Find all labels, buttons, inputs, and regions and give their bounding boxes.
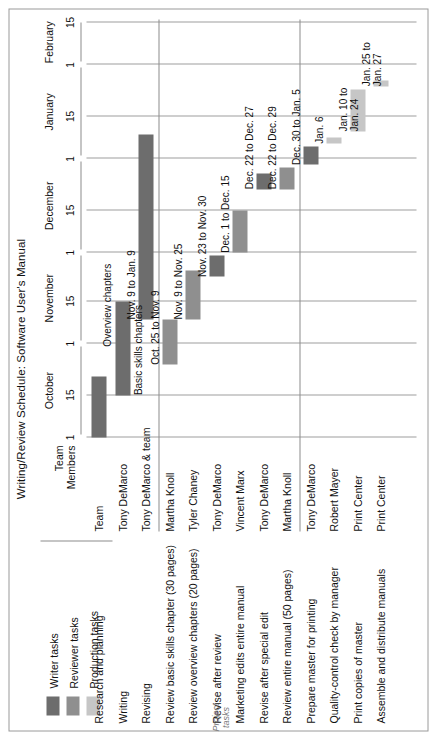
- gantt-chart-screenshot: Writing/Review Schedule: Software User's…: [0, 0, 435, 737]
- bar-date-label-line1: Nov. 9 to Nov. 25: [172, 243, 183, 319]
- bar-date-label: Jan. 10 toJan. 24: [337, 87, 359, 131]
- bar-date-label-line1: Dec. 1 to Dec. 15: [219, 175, 230, 252]
- task-label: Review entire manual (50 pages): [280, 569, 292, 723]
- team-member-label: Robert Mayer: [327, 467, 339, 531]
- task-label: Research and planning: [92, 615, 104, 723]
- gridline-vertical: [86, 209, 416, 210]
- team-members-line1: Team: [52, 445, 64, 531]
- axis-month-november: November: [42, 258, 54, 338]
- legend-swatch-writer: [46, 696, 59, 715]
- legend-swatch-reviewer: [66, 696, 79, 715]
- axis-tick-november-15: 15: [64, 294, 75, 308]
- bar-date-label: Oct. 25 to Nov. 9: [149, 290, 160, 364]
- gantt-bar[interactable]: [279, 167, 294, 188]
- bar-date-label: Dec. 1 to Dec. 15: [219, 175, 230, 252]
- axis-tick-october-15: 15: [64, 388, 75, 402]
- axis-tick-december-1: 1: [64, 245, 75, 259]
- task-label: Revising: [139, 683, 151, 723]
- column-header-team-members: Team Members: [52, 445, 76, 531]
- task-label: Marketing edits entire manual: [233, 585, 245, 723]
- group-label-line1: Project: [210, 699, 220, 735]
- bar-date-label-line2: Jan. 27: [371, 42, 382, 86]
- gantt-bar[interactable]: [303, 146, 318, 164]
- task-label: Quality-control check by manager: [327, 567, 339, 723]
- gantt-bar[interactable]: [326, 137, 341, 143]
- axis-rule-february: [80, 22, 81, 61]
- legend-item-reviewer: Reviewer tasks: [64, 565, 81, 715]
- team-member-label: Vincent Marx: [233, 470, 245, 531]
- annotation-overview-chapters: Overview chapters: [101, 263, 112, 346]
- team-member-label: Print Center: [351, 475, 363, 531]
- axis-rule-january: [80, 67, 81, 155]
- gantt-plot-area: Nov. 9 to Jan. 9Oct. 25 to Nov. 9Nov. 9 …: [86, 19, 416, 437]
- axis-month-december: December: [42, 165, 54, 245]
- axis-tick-february-15: 15: [64, 15, 75, 29]
- team-member-label: Tony DeMarco & team: [139, 427, 151, 531]
- bar-date-label-line1: Nov. 23 to Nov. 30: [196, 195, 207, 276]
- legend-label-writer: Writer tasks: [47, 633, 59, 688]
- axis-rule-october: [80, 346, 81, 434]
- group-separator: [158, 19, 159, 531]
- bar-date-label: Dec. 22 to Dec. 29: [266, 106, 277, 189]
- axis-tick-october-1: 1: [64, 430, 75, 444]
- bar-date-label: Dec. 30 to Jan. 5: [290, 89, 301, 165]
- gantt-bar[interactable]: [185, 270, 200, 318]
- axis-tick-february-1: 1: [64, 57, 75, 71]
- legend-label-reviewer: Reviewer tasks: [67, 617, 79, 688]
- team-member-label: Tony DeMarco: [304, 463, 316, 531]
- bar-date-label-line1: Dec. 30 to Jan. 5: [290, 89, 301, 165]
- bar-date-label-line1: Jan. 6: [313, 116, 324, 143]
- bar-date-label-line1: Dec. 22 to Dec. 29: [266, 106, 277, 189]
- axis-tick-november-1: 1: [64, 336, 75, 350]
- time-axis: October115November115December115January1…: [40, 19, 86, 437]
- bar-date-label-line1: Jan. 25 to: [360, 42, 371, 86]
- bar-date-label-line1: Oct. 25 to Nov. 9: [149, 290, 160, 364]
- bar-date-label-line2: Jan. 24: [348, 87, 359, 131]
- team-member-label: Tony DeMarco: [210, 463, 222, 531]
- axis-tick-january-15: 15: [64, 109, 75, 123]
- team-member-label: Martha Knoll: [280, 472, 292, 531]
- bar-date-label-line1: Dec. 22 to Dec. 27: [243, 106, 254, 189]
- team-member-label: Tyler Chaney: [186, 469, 198, 531]
- team-member-label: Tony DeMarco: [116, 463, 128, 531]
- bar-date-label-line1: Jan. 10 to: [337, 87, 348, 131]
- gantt-figure: Writing/Review Schedule: Software User's…: [0, 0, 435, 737]
- group-label-project-tasks: Project tasks: [210, 699, 230, 735]
- task-row-labels: Research and planningTeamWritingTony DeM…: [86, 437, 416, 723]
- team-member-label: Martha Knoll: [163, 472, 175, 531]
- gantt-bar[interactable]: [91, 376, 106, 437]
- bar-date-label: Nov. 23 to Nov. 30: [196, 195, 207, 276]
- axis-tick-december-15: 15: [64, 203, 75, 217]
- gantt-bar[interactable]: [162, 319, 177, 364]
- task-label: Writing: [116, 691, 128, 723]
- task-label: Prepare master for printing: [304, 598, 316, 723]
- axis-month-february: February: [42, 2, 54, 82]
- axis-rule-november: [80, 255, 81, 340]
- legend-item-writer: Writer tasks: [44, 565, 61, 715]
- bar-date-label: Jan. 25 toJan. 27: [360, 42, 382, 86]
- task-label: Print copies of master: [351, 621, 363, 723]
- gantt-bar[interactable]: [232, 210, 247, 252]
- axis-month-october: October: [42, 350, 54, 430]
- team-members-line2: Members: [64, 445, 76, 531]
- task-label: Review overview chapters (20 pages): [186, 548, 198, 723]
- axis-month-january: January: [42, 71, 54, 151]
- team-member-label: Team: [92, 505, 104, 531]
- bar-date-label: Nov. 9 to Nov. 25: [172, 243, 183, 319]
- group-label-line2: tasks: [220, 699, 230, 735]
- team-member-label: Tony DeMarco: [257, 463, 269, 531]
- task-label: Review basic skills chapter (30 pages): [163, 544, 175, 723]
- gridline-vertical: [86, 436, 416, 437]
- axis-rule-december: [80, 161, 81, 249]
- axis-tick-january-1: 1: [64, 151, 75, 165]
- team-member-label: Print Center: [374, 475, 386, 531]
- bar-date-label: Dec. 22 to Dec. 27: [243, 106, 254, 189]
- task-label: Revise after special edit: [257, 612, 269, 723]
- annotation-basic-skills-chapters: Basic skills chapters: [132, 305, 143, 395]
- task-label: Assemble and distribute manuals: [374, 568, 386, 723]
- chart-title: Writing/Review Schedule: Software User's…: [14, 0, 26, 737]
- gantt-bar[interactable]: [209, 255, 224, 276]
- bar-date-label: Jan. 6: [313, 116, 324, 143]
- gridline-vertical: [86, 21, 416, 22]
